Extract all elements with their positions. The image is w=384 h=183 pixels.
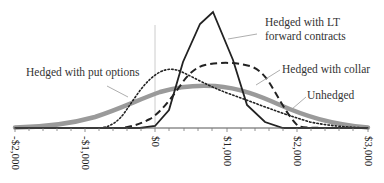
x-tick-label: $0: [150, 136, 162, 147]
leader-lt-forward: [228, 34, 257, 39]
x-tick-label: -$1,000: [80, 136, 92, 170]
label-lt-forward-line1: Hedged with LT: [265, 16, 340, 29]
leader-put-options: [107, 86, 128, 97]
x-tick-label: -$2,000: [10, 136, 22, 170]
label-put-options: Hedged with put options: [26, 66, 139, 79]
x-tick-label: $3,000: [363, 136, 375, 166]
x-tick-label: $2,000: [292, 136, 304, 166]
x-tick-label: $1,000: [222, 136, 234, 166]
label-collar: Hedged with collar: [282, 63, 370, 76]
leader-collar: [256, 70, 280, 85]
label-unhedged: Unhedged: [307, 89, 354, 102]
leader-unhedged: [292, 97, 306, 109]
label-lt-forward-line2: forward contracts: [265, 30, 346, 43]
